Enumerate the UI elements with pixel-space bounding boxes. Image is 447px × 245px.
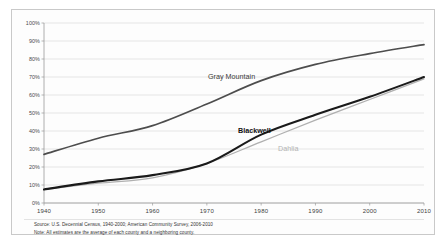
y-axis-tick-label: 60% <box>18 92 40 98</box>
y-axis-tick-label: 0% <box>18 200 40 206</box>
x-axis-tick-label: 2010 <box>404 208 444 214</box>
y-axis-tick-label: 30% <box>18 146 40 152</box>
y-axis-tick-label: 90% <box>18 38 40 44</box>
series-label-blackwell: Blackwell <box>238 126 271 135</box>
series-line-dahlia <box>44 79 424 190</box>
methodology-note: Note: All estimates are the average of e… <box>34 230 194 235</box>
series-line-blackwell <box>44 77 424 190</box>
x-axis-tick-label: 1990 <box>295 208 335 214</box>
y-axis-tick-label: 80% <box>18 56 40 62</box>
x-axis-tick-label: 1960 <box>133 208 173 214</box>
x-axis-tick-label: 1970 <box>187 208 227 214</box>
source-note: Source: U.S. Decennial Census, 1940-2000… <box>34 222 213 227</box>
y-axis-tick-label: 20% <box>18 164 40 170</box>
chart-plot-area: 100%90%80%70%60%50%40%30%20%10%0% 194019… <box>12 10 436 236</box>
y-axis-tick-label: 50% <box>18 110 40 116</box>
x-axis-tick-label: 1980 <box>241 208 281 214</box>
y-axis-tick-label: 100% <box>18 20 40 26</box>
x-axis-tick-label: 2000 <box>350 208 390 214</box>
footer-divider <box>24 219 424 220</box>
x-axis-tick-label: 1950 <box>78 208 118 214</box>
chart-frame: 100%90%80%70%60%50%40%30%20%10%0% 194019… <box>11 9 435 235</box>
line-chart-canvas <box>12 10 436 236</box>
y-axis-tick-label: 40% <box>18 128 40 134</box>
y-axis-tick-label: 10% <box>18 182 40 188</box>
series-label-dahlia: Dahlia <box>278 144 298 153</box>
y-axis-tick-label: 70% <box>18 74 40 80</box>
series-label-gray-mountain: Gray Mountain <box>208 72 255 81</box>
x-axis-tick-label: 1940 <box>24 208 64 214</box>
series-line-gray-mountain <box>44 45 424 155</box>
